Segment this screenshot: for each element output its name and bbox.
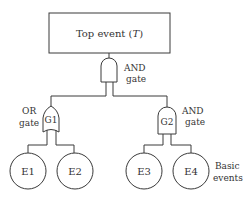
bus-left (51, 96, 106, 108)
top-event-label: Top event (T) (76, 28, 143, 39)
g1-to-e2 (56, 130, 74, 153)
g2-label-2: gate (185, 117, 205, 127)
top-gate-label-2: gate (126, 74, 146, 84)
g2-to-e3 (144, 134, 163, 153)
basic-events-label-1: Basic (215, 161, 240, 171)
e1-label: E1 (21, 166, 35, 177)
top-and-gate-icon (101, 58, 117, 82)
basic-events-label-2: events (213, 173, 243, 183)
bus-right (113, 96, 167, 108)
g1-id: G1 (45, 115, 58, 125)
g1-label-1: OR (22, 106, 36, 116)
g1-to-e1 (28, 130, 47, 153)
g1-label-2: gate (19, 118, 39, 128)
g2-to-e4 (171, 134, 191, 153)
top-gate-label-1: AND (123, 63, 146, 73)
e2-label: E2 (68, 166, 82, 177)
fault-tree-diagram: Top event (T) AND gate G1 OR gate G2 AND… (0, 0, 249, 199)
e4-label: E4 (184, 166, 198, 177)
g2-id: G2 (161, 117, 174, 127)
g2-label-1: AND (181, 106, 204, 116)
e3-label: E3 (137, 166, 151, 177)
